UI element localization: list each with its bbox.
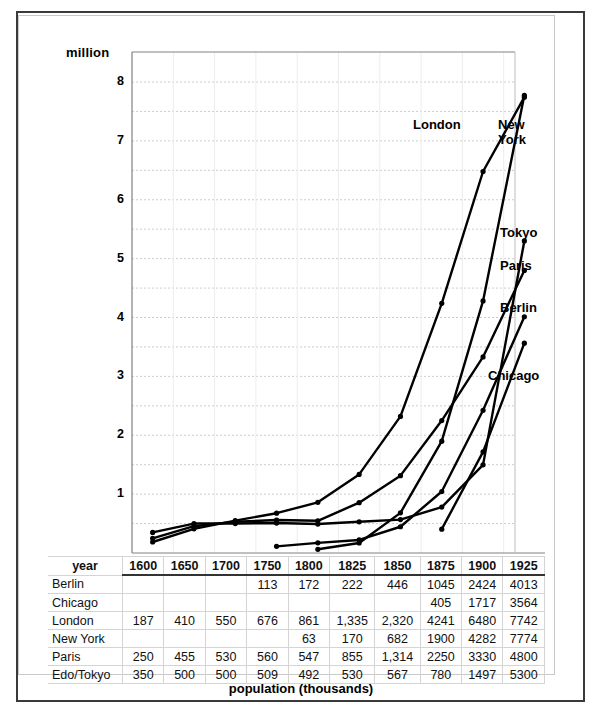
y-tick-6: 6 [100, 192, 124, 206]
table-header-row: year160016501700175018001825185018751900… [48, 557, 545, 576]
table-cell [247, 594, 288, 612]
table-cell [123, 630, 164, 648]
table-cell: 2,320 [375, 612, 420, 630]
table-cell: 172 [288, 575, 329, 594]
table-cell [164, 630, 205, 648]
table-cell: 405 [420, 594, 461, 612]
table-row-label-london: London [48, 612, 123, 630]
table-cell: 1045 [420, 575, 461, 594]
table-cell: 2250 [420, 648, 461, 666]
table-cell [123, 575, 164, 594]
table-row-label-paris: Paris [48, 648, 123, 666]
table-row: New York63170682190042827774 [48, 630, 545, 648]
chart-figure: million 12345678 LondonNew YorkTokyoPari… [0, 0, 602, 724]
table-col-header-1925: 1925 [503, 557, 545, 576]
table-cell [164, 575, 205, 594]
population-data-table: year160016501700175018001825185018751900… [48, 556, 545, 684]
table-row: London1874105506768611,3352,320424164807… [48, 612, 545, 630]
table-cell [288, 594, 329, 612]
table-year-header: year [48, 557, 123, 576]
table-cell: 4241 [420, 612, 461, 630]
series-label-tokyo: Tokyo [500, 225, 537, 240]
table-row-label-new-york: New York [48, 630, 123, 648]
series-label-new-york: New York [498, 117, 526, 147]
table-cell: 187 [123, 612, 164, 630]
table-cell [205, 594, 246, 612]
table-cell: 410 [164, 612, 205, 630]
table-cell: 861 [288, 612, 329, 630]
table-col-header-1700: 1700 [205, 557, 246, 576]
series-label-london: London [413, 117, 461, 132]
table-col-header-1825: 1825 [330, 557, 375, 576]
table-cell: 113 [247, 575, 288, 594]
table-cell [330, 594, 375, 612]
table-cell: 1,335 [330, 612, 375, 630]
y-tick-1: 1 [100, 486, 124, 500]
table-cell: 250 [123, 648, 164, 666]
table-cell: 7742 [503, 612, 545, 630]
table-cell [205, 575, 246, 594]
table-cell [205, 630, 246, 648]
table-cell: 222 [330, 575, 375, 594]
table-cell: 4800 [503, 648, 545, 666]
y-tick-7: 7 [100, 133, 124, 147]
y-tick-3: 3 [100, 368, 124, 382]
table-row: Berlin113172222446104524244013 [48, 575, 545, 594]
table-cell: 3564 [503, 594, 545, 612]
table-row-label-berlin: Berlin [48, 575, 123, 594]
table-cell [247, 630, 288, 648]
table-col-header-1750: 1750 [247, 557, 288, 576]
y-tick-8: 8 [100, 74, 124, 88]
series-label-berlin: Berlin [500, 300, 537, 315]
chart-caption: population (thousands) [0, 681, 602, 696]
table-cell: 550 [205, 612, 246, 630]
table-col-header-1875: 1875 [420, 557, 461, 576]
table-cell: 63 [288, 630, 329, 648]
table-cell [164, 594, 205, 612]
table-row: Chicago40517173564 [48, 594, 545, 612]
table-cell: 1717 [462, 594, 503, 612]
y-tick-2: 2 [100, 427, 124, 441]
table-col-header-1600: 1600 [123, 557, 164, 576]
y-tick-5: 5 [100, 251, 124, 265]
table-cell: 547 [288, 648, 329, 666]
table-row-label-chicago: Chicago [48, 594, 123, 612]
table-cell: 4282 [462, 630, 503, 648]
series-label-chicago: Chicago [488, 368, 539, 383]
table-cell: 855 [330, 648, 375, 666]
series-label-paris: Paris [500, 258, 532, 273]
table-cell: 1900 [420, 630, 461, 648]
table-col-header-1800: 1800 [288, 557, 329, 576]
table-cell: 4013 [503, 575, 545, 594]
table-cell: 682 [375, 630, 420, 648]
table-col-header-1650: 1650 [164, 557, 205, 576]
table-cell: 1,314 [375, 648, 420, 666]
table-cell: 455 [164, 648, 205, 666]
table-cell: 560 [247, 648, 288, 666]
table-row: Paris2504555305605478551,314225033304800 [48, 648, 545, 666]
table-col-header-1850: 1850 [375, 557, 420, 576]
table-col-header-1900: 1900 [462, 557, 503, 576]
table-cell [123, 594, 164, 612]
table-cell: 6480 [462, 612, 503, 630]
y-tick-4: 4 [100, 310, 124, 324]
table-cell: 530 [205, 648, 246, 666]
table-cell: 7774 [503, 630, 545, 648]
table-cell [375, 594, 420, 612]
table-cell: 446 [375, 575, 420, 594]
table-cell: 676 [247, 612, 288, 630]
table-cell: 3330 [462, 648, 503, 666]
table-cell: 2424 [462, 575, 503, 594]
table-cell: 170 [330, 630, 375, 648]
